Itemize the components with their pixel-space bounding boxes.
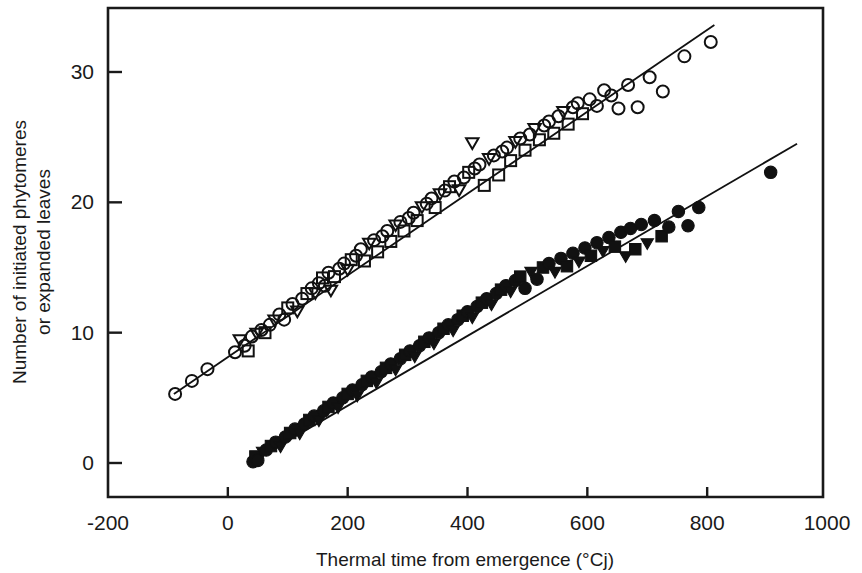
markers-2 <box>247 166 777 468</box>
series-1 <box>169 25 717 400</box>
data-series-layer <box>169 25 797 468</box>
y-axis-ticks <box>108 72 122 463</box>
data-point-circle <box>764 166 776 178</box>
data-point-circle <box>693 201 705 213</box>
data-point-circle <box>644 71 656 83</box>
figure-container: -20002004006008001000 0102030 Thermal ti… <box>0 0 862 573</box>
x-axis-ticks <box>228 487 707 497</box>
data-point-circle <box>531 273 543 285</box>
x-tick-label-0: 0 <box>222 511 234 534</box>
y-tick-label-0: 0 <box>82 451 94 474</box>
x-tick-label-1000: 1000 <box>804 511 851 534</box>
x-tick-label-600: 600 <box>570 511 605 534</box>
data-point-square <box>585 250 596 261</box>
data-point-triangle-down <box>549 267 561 278</box>
series-2 <box>247 144 797 468</box>
x-tick-label-400: 400 <box>450 511 485 534</box>
data-point-circle <box>705 36 717 48</box>
data-point-circle <box>678 50 690 62</box>
data-point-circle <box>648 214 660 226</box>
y-axis-tick-labels: 0102030 <box>71 60 94 474</box>
markers-1 <box>169 36 717 400</box>
data-point-square <box>561 260 572 271</box>
fit-line-2 <box>252 144 797 462</box>
data-point-circle <box>612 102 624 114</box>
y-tick-label-30: 30 <box>71 60 94 83</box>
data-point-circle <box>682 220 694 232</box>
x-axis-title: Thermal time from emergence (°Cj) <box>316 549 614 570</box>
x-axis-tick-labels: -20002004006008001000 <box>87 511 850 534</box>
y-tick-label-10: 10 <box>71 321 94 344</box>
data-point-circle <box>635 218 647 230</box>
data-point-triangle-down <box>573 257 585 268</box>
data-point-circle <box>632 101 644 113</box>
data-point-triangle-down <box>641 239 653 250</box>
data-point-triangle-down <box>466 138 478 149</box>
data-point-square <box>609 241 620 252</box>
data-point-circle <box>584 93 596 105</box>
data-point-circle <box>663 221 675 233</box>
data-point-circle <box>657 86 669 98</box>
data-point-square <box>515 271 526 282</box>
x-tick-label-800: 800 <box>690 511 725 534</box>
y-axis-title-line1: Number of initiated phytomeres <box>9 120 30 384</box>
scatter-plot: -20002004006008001000 0102030 Thermal ti… <box>0 0 862 573</box>
data-point-circle <box>519 282 531 294</box>
x-tick-label--200: -200 <box>87 511 129 534</box>
x-tick-label-200: 200 <box>330 511 365 534</box>
data-point-circle <box>672 205 684 217</box>
data-point-triangle-down <box>597 247 609 258</box>
y-tick-label-20: 20 <box>71 190 94 213</box>
y-axis-title-line2: or expanded leaves <box>33 169 54 335</box>
data-point-square <box>630 244 641 255</box>
plot-frame <box>108 8 823 497</box>
